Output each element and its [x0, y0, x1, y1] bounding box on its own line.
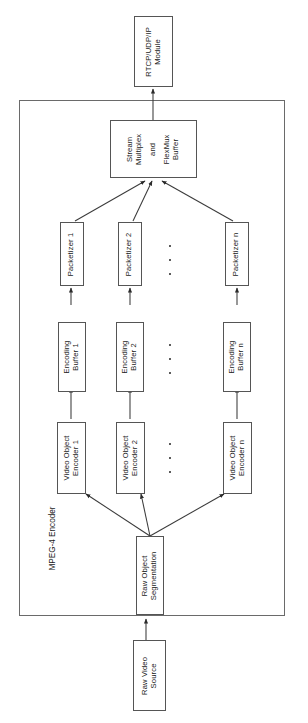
node-stream-multiplex-line5: Buffer [172, 133, 181, 164]
node-encoding-buffer-2-line2: Buffer 2 [130, 341, 139, 374]
node-raw-video-source: Raw Video Source [133, 640, 166, 711]
ellipsis-dot [169, 245, 171, 247]
node-video-object-encoder-1-line2: Encoder 1 [72, 435, 81, 480]
ellipsis-dot [169, 344, 171, 346]
node-packetizer-2: Packetizer 2 [118, 222, 142, 286]
node-encoding-buffer-n-label: Encoding Buffer n [228, 341, 246, 374]
node-raw-video-source-label: Raw Video Source [141, 657, 159, 695]
node-video-object-encoder-1: Video Object Encoder 1 [57, 422, 86, 494]
ellipsis-video-object-encoder-row [168, 443, 172, 473]
node-video-object-encoder-1-label: Video Object Encoder 1 [63, 435, 81, 480]
node-video-object-encoder-n-line2: Encoder n [238, 435, 247, 480]
ellipsis-dot [169, 358, 171, 360]
node-raw-object-segmentation-label: Raw Object Segmentation [141, 551, 159, 600]
node-raw-object-segmentation: Raw Object Segmentation [136, 536, 164, 615]
ellipsis-dot [169, 273, 171, 275]
node-stream-multiplex-flexmux-buffer: Stream Multiplex and FlexMux Buffer [110, 120, 197, 178]
node-packetizer-1: Packetizer 1 [60, 222, 84, 286]
ellipsis-packetizer-row [168, 245, 172, 275]
node-encoding-buffer-2-label: Encoding Buffer 2 [121, 341, 139, 374]
node-packetizer-n: Packetizer n [225, 222, 249, 286]
node-packetizer-1-label: Packetizer 1 [68, 232, 77, 276]
ellipsis-encoding-buffer-row [168, 344, 172, 374]
node-rtcp-udp-ip-module: RTCP/UDP/IP Module [134, 16, 173, 87]
ellipsis-dot [169, 457, 171, 459]
ellipsis-dot [169, 372, 171, 374]
ellipsis-dot [169, 471, 171, 473]
node-packetizer-n-label: Packetizer n [233, 232, 242, 276]
node-encoding-buffer-1: Encoding Buffer 1 [58, 322, 86, 392]
ellipsis-dot [169, 259, 171, 261]
node-encoding-buffer-1-line2: Buffer 1 [72, 341, 81, 374]
node-encoding-buffer-2: Encoding Buffer 2 [116, 322, 144, 392]
mpeg4-encoder-container-label: MPEG-4 Encoder [12, 531, 92, 545]
node-stream-multiplex-line2: Multiplex [135, 133, 144, 164]
node-rtcp-udp-ip-module-label: RTCP/UDP/IP Module [145, 27, 163, 77]
node-video-object-encoder-n-label: Video Object Encoder n [229, 435, 247, 480]
node-rtcp-udp-ip-module-line2: Module [154, 27, 163, 77]
mpeg4-encoder-block-diagram: MPEG-4 Encoder [0, 0, 308, 723]
node-raw-object-segmentation-line2: Segmentation [150, 551, 159, 600]
figure-caption: Figure 1. MPEG-4 [296, 560, 308, 710]
node-encoding-buffer-1-label: Encoding Buffer 1 [63, 341, 81, 374]
node-video-object-encoder-2-label: Video Object Encoder 2 [122, 435, 140, 480]
node-encoding-buffer-n-line2: Buffer n [237, 341, 246, 374]
node-raw-video-source-line2: Source [150, 657, 159, 695]
node-video-object-encoder-n: Video Object Encoder n [223, 422, 252, 494]
node-video-object-encoder-2: Video Object Encoder 2 [116, 422, 145, 494]
node-video-object-encoder-2-line2: Encoder 2 [131, 435, 140, 480]
node-stream-multiplex-flexmux-buffer-label: Stream Multiplex and FlexMux Buffer [126, 133, 181, 164]
node-stream-multiplex-line3: and [149, 133, 158, 164]
node-encoding-buffer-n: Encoding Buffer n [223, 322, 251, 392]
ellipsis-dot [169, 443, 171, 445]
node-packetizer-2-label: Packetizer 2 [126, 232, 135, 276]
mpeg4-encoder-container-label-text: MPEG-4 Encoder [47, 506, 56, 570]
